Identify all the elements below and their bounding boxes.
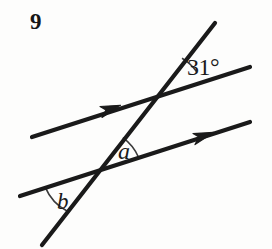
angle-label-a: a: [118, 139, 130, 163]
lower-parallel-line: [20, 122, 250, 196]
geometry-canvas: [0, 0, 272, 249]
problem-number: 9: [30, 10, 42, 33]
geometry-figure: 9 31° a b: [0, 0, 272, 249]
angle-label-b: b: [57, 190, 69, 213]
angle-label-31-degrees: 31°: [187, 55, 219, 79]
